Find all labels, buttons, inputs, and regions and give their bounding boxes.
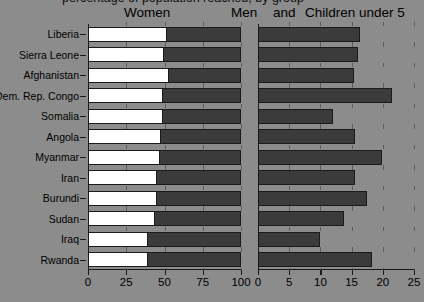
x-axis-tick: [203, 270, 204, 275]
bar-children-under-5: [258, 170, 355, 185]
grid-tick-mark: [203, 165, 204, 169]
x-axis-tick: [126, 270, 127, 275]
grid-tick-mark: [126, 145, 127, 149]
y-axis-label-dem-rep-congo: Dem. Rep. Congo: [0, 86, 79, 107]
grid-tick-mark: [241, 63, 242, 67]
grid-tick-mark: [289, 227, 290, 231]
x-axis-tick-label: 0: [255, 276, 261, 289]
grid-tick-mark: [241, 145, 242, 149]
grid-tick-mark: [352, 145, 353, 149]
y-axis-tick: [80, 34, 86, 35]
legend-label-women: Women: [124, 3, 170, 22]
grid-tick-mark: [352, 227, 353, 231]
grid-tick-mark: [352, 104, 353, 108]
table-row: [258, 168, 414, 189]
grid-tick-mark: [383, 22, 384, 26]
grid-tick-mark: [126, 186, 127, 190]
bar-segment-women: [88, 252, 148, 267]
bar-segment-women: [88, 109, 163, 124]
grid-tick-mark: [165, 124, 166, 128]
grid-tick-mark: [241, 22, 242, 26]
grid-tick-mark: [126, 22, 127, 26]
grid-tick-mark: [126, 206, 127, 210]
table-row: [258, 86, 414, 107]
bar-children-under-5: [258, 109, 333, 124]
grid-tick-mark: [414, 247, 415, 251]
x-axis-tick: [414, 270, 415, 275]
y-axis-tick: [80, 219, 86, 220]
table-row: [258, 229, 414, 250]
grid-tick-mark: [289, 165, 290, 169]
grid-tick-mark: [383, 165, 384, 169]
grid-tick-mark: [289, 104, 290, 108]
grid-tick-mark: [241, 247, 242, 251]
grid-tick-mark: [320, 247, 321, 251]
grid-tick-mark: [414, 206, 415, 210]
bar-segment-women: [88, 150, 160, 165]
panel-right-children: [258, 24, 414, 270]
grid-tick-mark: [126, 247, 127, 251]
grid-tick-mark: [320, 145, 321, 149]
bar-segment-men: [147, 252, 241, 267]
bar-segment-women: [88, 68, 169, 83]
table-row: [258, 24, 414, 45]
bar-children-under-5: [258, 88, 392, 103]
x-axis-tick-label: 25: [120, 276, 133, 289]
y-axis-label-liberia: Liberia: [47, 24, 79, 45]
grid-tick-mark: [414, 227, 415, 231]
table-row: [258, 106, 414, 127]
grid-tick-mark: [165, 186, 166, 190]
grid-tick-mark: [126, 124, 127, 128]
bar-segment-men: [156, 170, 241, 185]
table-row: [258, 65, 414, 86]
grid-tick-mark: [383, 227, 384, 231]
grid-tick-mark: [289, 247, 290, 251]
bar-segment-women: [88, 88, 163, 103]
bar-segment-women: [88, 170, 157, 185]
table-row: [258, 127, 414, 148]
y-axis-label-iran: Iran: [61, 168, 79, 189]
table-row: [258, 45, 414, 66]
y-axis-tick: [80, 260, 86, 261]
grid-tick-mark: [414, 22, 415, 26]
grid-tick-mark: [320, 42, 321, 46]
x-axis-tick-label: 50: [158, 276, 171, 289]
y-axis-label-sierra-leone: Sierra Leone: [19, 45, 79, 66]
grid-tick-mark: [383, 145, 384, 149]
bar-segment-women: [88, 191, 157, 206]
grid-tick-mark: [126, 42, 127, 46]
grid-tick-mark: [165, 42, 166, 46]
table-row: [258, 250, 414, 271]
grid-tick-mark: [241, 186, 242, 190]
grid-tick-mark: [352, 206, 353, 210]
grid-tick-mark: [383, 186, 384, 190]
bar-segment-women: [88, 211, 155, 226]
grid-tick-mark: [414, 145, 415, 149]
grid-tick-mark: [126, 165, 127, 169]
y-axis-tick: [80, 55, 86, 56]
bar-segment-men: [154, 211, 241, 226]
grid-tick-mark: [241, 227, 242, 231]
y-axis-label-rwanda: Rwanda: [40, 250, 79, 271]
bar-segment-men: [163, 47, 241, 62]
grid-tick-mark: [289, 124, 290, 128]
x-axis-tick: [241, 270, 242, 275]
bar-segment-women: [88, 129, 161, 144]
grid-tick-mark: [383, 83, 384, 87]
x-axis-tick-label: 20: [376, 276, 389, 289]
grid-tick-mark: [352, 63, 353, 67]
grid-tick-mark: [383, 247, 384, 251]
grid-tick-mark: [320, 186, 321, 190]
grid-tick-mark: [383, 104, 384, 108]
legend-label-and: and: [273, 3, 296, 22]
grid-tick-mark: [203, 227, 204, 231]
bar-segment-men: [162, 109, 241, 124]
x-axis-tick-label: 0: [85, 276, 91, 289]
x-axis-tick: [88, 270, 89, 275]
grid-tick-mark: [383, 124, 384, 128]
bar-segment-men: [147, 232, 241, 247]
bar-children-under-5: [258, 129, 355, 144]
grid-tick-mark: [165, 206, 166, 210]
grid-tick-mark: [241, 42, 242, 46]
bar-segment-women: [88, 27, 168, 42]
